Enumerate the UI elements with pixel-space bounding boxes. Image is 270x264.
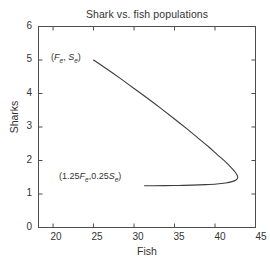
perturbed-point-label: (1.25Fe,0.25Se) [59, 171, 121, 183]
equilibrium-point-label: (Fe, Se) [51, 52, 81, 64]
plot-area [0, 0, 270, 264]
chart-figure: Shark vs. fish populations Sharks Fish 6… [0, 0, 270, 264]
data-curve [94, 60, 238, 186]
